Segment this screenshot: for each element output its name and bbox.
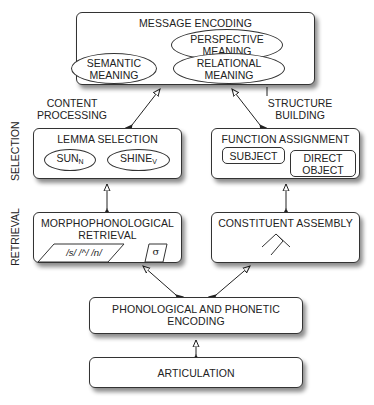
morphophonological-retrieval-box: MORPHOPHONOLOGICAL RETRIEVAL /s/ /^/ /n/… — [33, 212, 182, 263]
selection-side-label: SELECTION — [9, 123, 21, 181]
arrow-message-to-function — [232, 89, 260, 125]
relational-label-line1: RELATIONAL — [197, 57, 262, 69]
lemma-selection-box: LEMMA SELECTION SUNN SHINEV — [33, 128, 182, 179]
message-encoding-title: MESSAGE ENCODING — [77, 17, 314, 29]
lemma-selection-title: LEMMA SELECTION — [34, 133, 181, 145]
perspective-label-line1: PERSPECTIVE — [190, 33, 264, 45]
arrow-message-to-lemma — [132, 89, 160, 125]
message-encoding-box: MESSAGE ENCODING PERSPECTIVE MEANING SEM… — [76, 12, 315, 85]
sun-label: SUN — [56, 152, 78, 164]
tree-structure-icon — [260, 231, 300, 257]
semantic-label-line1: SEMANTIC — [87, 57, 141, 69]
phonological-encoding-title: PHONOLOGICAL AND PHONETIC ENCODING — [90, 303, 302, 327]
direct-object-line2: OBJECT — [302, 164, 343, 176]
semantic-meaning-ellipse: SEMANTIC MEANING — [71, 53, 157, 84]
relational-label-line2: MEANING — [204, 69, 253, 81]
arrow-constituent-to-phonological — [216, 266, 250, 295]
shine-verb-ellipse: SHINEV — [107, 149, 170, 171]
syllable-label: σ — [144, 246, 168, 257]
constituent-assembly-title: CONSTITUENT ASSEMBLY — [212, 217, 359, 229]
constituent-assembly-box: CONSTITUENT ASSEMBLY — [211, 212, 360, 263]
articulation-title: ARTICULATION — [90, 367, 302, 379]
phonological-encoding-box: PHONOLOGICAL AND PHONETIC ENCODING — [89, 297, 303, 334]
phoneme-label: /s/ /^/ /n/ — [54, 247, 114, 258]
subject-box: SUBJECT — [222, 147, 285, 164]
function-assignment-title: FUNCTION ASSIGNMENT — [212, 133, 359, 145]
content-processing-label: CONTENT PROCESSING — [36, 97, 108, 121]
function-assignment-box: FUNCTION ASSIGNMENT SUBJECT DIRECT OBJEC… — [211, 128, 360, 179]
shine-label: SHINE — [120, 152, 152, 164]
retrieval-side-label: RETRIEVAL — [9, 208, 21, 266]
morphophonological-title: MORPHOPHONOLOGICAL RETRIEVAL — [34, 217, 181, 241]
direct-object-box: DIRECT OBJECT — [290, 150, 356, 177]
structure-building-label: STRUCTURE BUILDING — [264, 97, 336, 121]
articulation-box: ARTICULATION — [89, 357, 303, 388]
arrow-morpho-to-phonological — [143, 266, 176, 295]
semantic-label-line2: MEANING — [89, 69, 138, 81]
sun-subscript: N — [79, 158, 84, 165]
shine-subscript: V — [152, 158, 157, 165]
direct-object-line1: DIRECT — [303, 152, 342, 164]
sun-noun-ellipse: SUNN — [44, 149, 96, 171]
relational-meaning-ellipse: RELATIONAL MEANING — [173, 53, 285, 84]
